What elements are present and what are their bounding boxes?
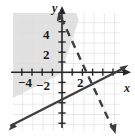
x-tick-label-2: 2 xyxy=(77,76,84,89)
graph-svg xyxy=(0,0,135,139)
y-tick-label-2: 2 xyxy=(43,48,50,61)
x-tick-label-neg4: −4 xyxy=(18,76,32,89)
coordinate-plane-figure: 4 2 −2 −4 2 y x xyxy=(0,0,135,139)
y-axis-arrow xyxy=(58,6,65,14)
y-axis-label: y xyxy=(52,2,57,14)
y-tick-label-4: 4 xyxy=(43,28,50,41)
x-axis-label: x xyxy=(124,82,130,94)
y-tick-label-neg2: −2 xyxy=(36,79,50,92)
